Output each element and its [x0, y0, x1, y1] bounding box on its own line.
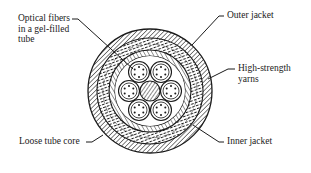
label-optical-fibers: Optical fibers in a gel-filled tube: [18, 13, 70, 45]
label-high-strength-yarns: High-strength yarns: [238, 63, 291, 84]
label-line: Optical fibers: [18, 13, 70, 24]
label-outer-jacket: Outer jacket: [227, 10, 274, 21]
loose-tube: [151, 62, 172, 83]
label-line: High-strength: [238, 63, 291, 74]
label-loose-tube-core: Loose tube core: [19, 136, 80, 147]
leader-inner-jacket: [193, 125, 224, 142]
leader-high-strength-yarns: [208, 69, 235, 79]
label-inner-jacket: Inner jacket: [227, 136, 272, 147]
label-line: tube: [18, 34, 70, 45]
loose-tube: [161, 81, 182, 102]
loose-tube: [129, 62, 150, 83]
label-line: yarns: [238, 74, 291, 85]
loose-tube-core: [115, 56, 185, 126]
label-line: in a gel-filled: [18, 24, 70, 35]
central-strength-member: [140, 81, 160, 101]
loose-tube: [119, 81, 140, 102]
loose-tube: [151, 100, 172, 121]
loose-tube: [129, 100, 150, 121]
leader-outer-jacket: [192, 16, 224, 45]
leader-loose-tube-core: [86, 135, 103, 142]
